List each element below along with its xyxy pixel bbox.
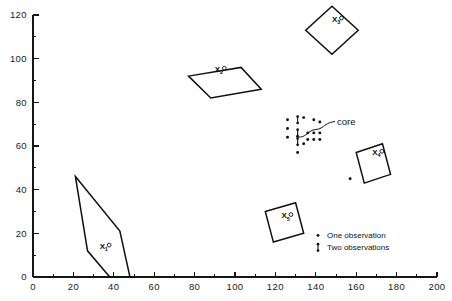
annotations-group: core <box>296 116 355 137</box>
region-x5-outline <box>265 203 303 242</box>
legend-group: One observationTwo observations <box>317 231 390 252</box>
region-x5-subscript: 5 <box>287 216 290 222</box>
legend-marker-two-observations-bottom <box>317 249 320 252</box>
observation-point-single <box>312 138 315 141</box>
region-x4-centroid-marker <box>380 149 384 153</box>
observation-point-single <box>318 121 321 124</box>
y-tick-label: 100 <box>10 53 27 64</box>
region-x3-subscript: 3 <box>337 19 340 25</box>
y-tick-label: 20 <box>16 228 27 239</box>
observation-point-single <box>286 136 289 139</box>
observation-point-single <box>312 131 315 134</box>
x-tick-label: 40 <box>108 281 119 292</box>
region-x3-outline <box>306 6 359 54</box>
y-tick-label: 60 <box>16 140 27 151</box>
core-leader-line <box>296 122 335 138</box>
observation-point-single <box>318 138 321 141</box>
observation-point-single <box>349 177 352 180</box>
core-annotation-label: core <box>337 116 355 127</box>
y-tick-label: 40 <box>16 184 27 195</box>
observation-point-double-top <box>296 128 299 131</box>
observation-point-single <box>296 151 299 154</box>
x-tick-label: 60 <box>149 281 160 292</box>
region-x1-centroid-marker <box>107 243 111 247</box>
x-tick-label: 180 <box>388 281 405 292</box>
observation-point-single <box>302 142 305 145</box>
y-tick-label: 80 <box>16 97 27 108</box>
region-x1-outline <box>75 177 130 277</box>
observation-point-single <box>286 127 289 130</box>
observation-point-double-bottom <box>296 143 299 146</box>
observation-point-single <box>312 118 315 121</box>
x-tick-label: 80 <box>189 281 200 292</box>
y-axis-major-ticks <box>33 15 39 277</box>
observation-point-single <box>286 118 289 121</box>
legend-label-2: Two observations <box>327 243 389 252</box>
region-x2-subscript: 2 <box>220 69 223 75</box>
observation-point-single <box>302 116 305 119</box>
x-axis-tick-labels: 020406080100120140160180200 <box>30 281 445 292</box>
y-axis-tick-labels: 020406080100120 <box>10 9 27 282</box>
x-tick-label: 20 <box>68 281 79 292</box>
scatter-plot-figure: 020406080100120140160180200 020406080100… <box>0 0 452 301</box>
x-tick-label: 140 <box>307 281 324 292</box>
region-x3-centroid-marker <box>340 16 344 20</box>
x-tick-label: 100 <box>226 281 243 292</box>
region-x1-subscript: 1 <box>105 246 108 252</box>
legend-marker-one-observation <box>317 234 320 237</box>
x-tick-label: 0 <box>30 281 36 292</box>
observation-point-single <box>306 138 309 141</box>
x-tick-label: 120 <box>267 281 284 292</box>
y-tick-label: 120 <box>10 9 27 20</box>
region-x2-outline <box>189 67 262 98</box>
region-x5-centroid-marker <box>289 213 293 217</box>
observation-point-double-top <box>296 115 299 118</box>
x-tick-label: 160 <box>348 281 365 292</box>
observation-point-single <box>318 131 321 134</box>
y-tick-label: 0 <box>21 271 27 282</box>
plot-canvas: 020406080100120140160180200 020406080100… <box>0 0 452 301</box>
legend-label-1: One observation <box>327 231 386 240</box>
legend-marker-two-observations-top <box>317 243 320 246</box>
x-tick-label: 200 <box>428 281 445 292</box>
observation-point-double-bottom <box>296 122 299 125</box>
